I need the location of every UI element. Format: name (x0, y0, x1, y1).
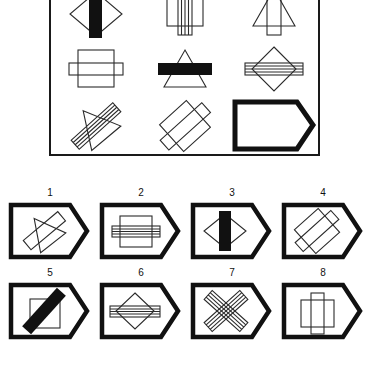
figure-option-6 (99, 281, 183, 341)
figure-missing-tag (231, 98, 317, 154)
option-8[interactable]: 8 (279, 267, 367, 341)
option-1-figure[interactable] (8, 201, 92, 261)
option-4[interactable]: 4 (279, 187, 367, 261)
figure-rotated-triangle-striped-rect (56, 98, 136, 154)
matrix-cell-6 (229, 42, 318, 98)
figure-option-4 (281, 201, 365, 261)
figure-diamond-black-vbar (56, 0, 136, 42)
figure-option-7 (190, 281, 274, 341)
option-6-figure[interactable] (99, 281, 183, 341)
matrix-cell-1 (51, 0, 140, 42)
option-2-figure[interactable] (99, 201, 183, 261)
option-7-figure[interactable] (190, 281, 274, 341)
option-1[interactable]: 1 (6, 187, 94, 261)
option-6-number: 6 (138, 267, 144, 279)
figure-diamond-striped-hrect (234, 42, 314, 98)
matrix-cell-4 (51, 42, 140, 98)
option-4-number: 4 (320, 187, 326, 199)
figure-option-8 (281, 281, 365, 341)
figure-triangle-vrect (234, 0, 314, 42)
option-1-number: 1 (47, 187, 53, 199)
figure-square-hrect (56, 42, 136, 98)
matrix-cell-9-missing (229, 98, 318, 154)
option-2[interactable]: 2 (97, 187, 185, 261)
figure-rotated-square-rect (145, 98, 225, 154)
option-7[interactable]: 7 (188, 267, 276, 341)
answer-options-row-2: 5 6 (0, 267, 373, 341)
option-8-figure[interactable] (281, 281, 365, 341)
option-5-figure[interactable] (8, 281, 92, 341)
option-3-number: 3 (229, 187, 235, 199)
figure-option-5 (8, 281, 92, 341)
figure-option-1 (8, 201, 92, 261)
option-3-figure[interactable] (190, 201, 274, 261)
option-5-number: 5 (47, 267, 53, 279)
figure-option-2 (99, 201, 183, 261)
answer-options-area: 1 2 (0, 185, 373, 365)
option-2-number: 2 (138, 187, 144, 199)
option-7-number: 7 (229, 267, 235, 279)
matrix-problem-panel (49, 0, 320, 156)
figure-square-striped-vrect (145, 0, 225, 42)
matrix-cell-5 (140, 42, 229, 98)
matrix-cell-8 (140, 98, 229, 154)
option-5[interactable]: 5 (6, 267, 94, 341)
matrix-cell-7 (51, 98, 140, 154)
option-6[interactable]: 6 (97, 267, 185, 341)
figure-triangle-black-hbar (145, 42, 225, 98)
option-3[interactable]: 3 (188, 187, 276, 261)
figure-option-3 (190, 201, 274, 261)
matrix-cell-2 (140, 0, 229, 42)
option-8-number: 8 (320, 267, 326, 279)
matrix-cell-3 (229, 0, 318, 42)
answer-options-row-1: 1 2 (0, 187, 373, 261)
option-4-figure[interactable] (281, 201, 365, 261)
matrix-grid (51, 0, 318, 154)
